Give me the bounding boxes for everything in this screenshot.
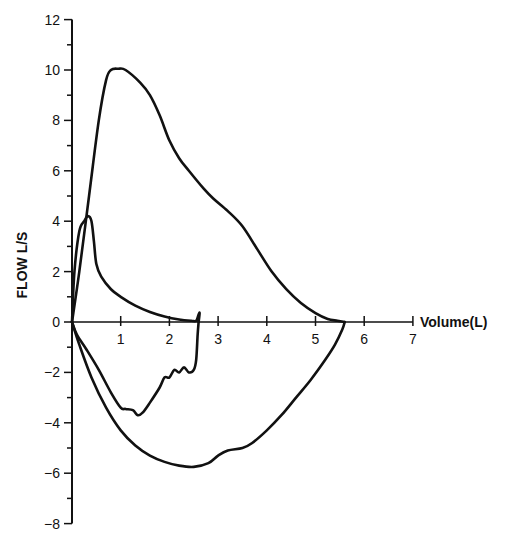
series-line-2 (72, 216, 200, 322)
x-tick-label: 6 (360, 331, 368, 347)
y-tick-label: 6 (52, 163, 60, 179)
y-tick-label: 0 (52, 314, 60, 330)
y-tick-label: −8 (44, 516, 60, 532)
x-tick-label: 2 (166, 331, 174, 347)
x-tick-label: 7 (409, 331, 417, 347)
x-tick-label: 4 (263, 331, 271, 347)
series-line-3 (72, 322, 199, 415)
y-tick-label: 12 (44, 12, 60, 28)
series-line-0 (72, 69, 345, 322)
y-tick-label: 2 (52, 264, 60, 280)
x-tick-label: 3 (214, 331, 222, 347)
x-tick-label: 5 (312, 331, 320, 347)
y-tick-label: −4 (44, 415, 60, 431)
flow-volume-chart: 121086420−2−4−6−81234567 Volume(L) FLOW … (0, 0, 519, 539)
y-axis-label: FLOW L/S (14, 232, 30, 299)
x-tick-label: 1 (117, 331, 125, 347)
y-tick-label: 8 (52, 112, 60, 128)
series-group (72, 69, 345, 468)
y-tick-label: −6 (44, 465, 60, 481)
y-tick-label: 10 (44, 62, 60, 78)
y-tick-label: 4 (52, 213, 60, 229)
y-tick-label: −2 (44, 364, 60, 380)
x-axis-label: Volume(L) (420, 314, 487, 330)
